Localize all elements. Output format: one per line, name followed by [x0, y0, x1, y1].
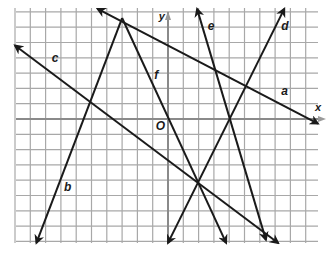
line-b [36, 18, 122, 243]
y-axis-label: y [158, 10, 166, 22]
line-e [197, 9, 266, 240]
line-label-a: a [281, 84, 288, 98]
line-label-b: b [64, 180, 71, 194]
line-label-e: e [208, 19, 215, 33]
line-label-c: c [52, 51, 59, 65]
origin-label: O [156, 119, 166, 133]
line-c [15, 46, 278, 243]
line-d [168, 9, 284, 243]
coordinate-diagram: abcdefOxy [0, 0, 330, 259]
x-axis-label: x [314, 101, 322, 113]
axes [16, 11, 326, 243]
grid [15, 8, 318, 243]
line-label-f: f [154, 68, 159, 82]
line-label-d: d [281, 19, 289, 33]
x-axis-arrow-icon [318, 116, 326, 122]
labels: abcdefOxy [52, 10, 322, 194]
